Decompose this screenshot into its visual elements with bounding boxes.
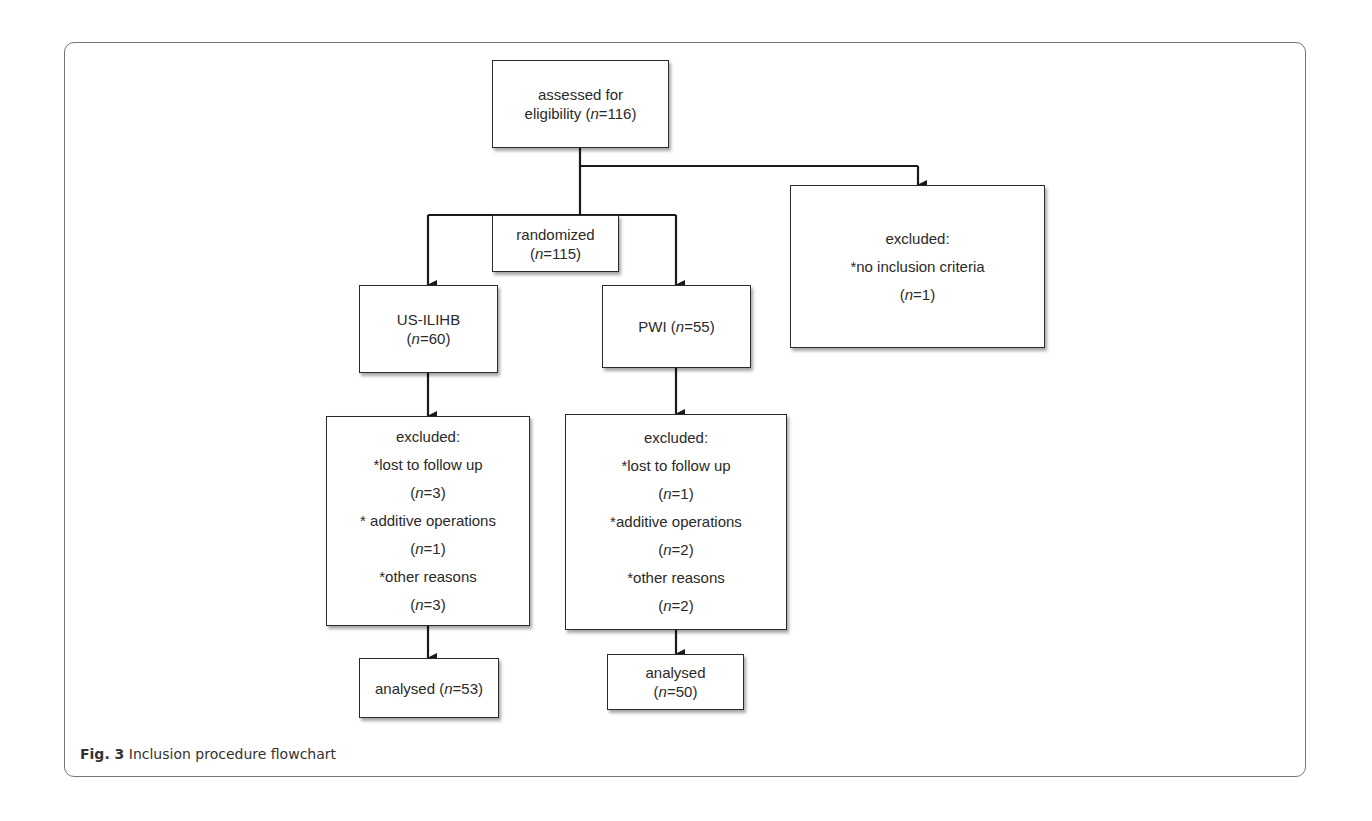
node-us-ilihb-label: US-ILIHB <box>397 310 460 329</box>
node-us-ilihb: US-ILIHB (n=60) <box>359 285 498 373</box>
excluded-pwi-reason-additive: *additive operations <box>610 508 742 536</box>
excluded-pwi-reason-other: *other reasons <box>627 564 725 592</box>
node-us-ilihb-count: (n=60) <box>407 329 451 348</box>
figure-caption: Fig. 3 Inclusion procedure flowchart <box>80 746 336 762</box>
excluded-us-reason-additive: * additive operations <box>360 507 496 535</box>
node-analysed-pwi-count: (n=50) <box>654 682 698 701</box>
excluded-us-reason-other: *other reasons <box>379 563 477 591</box>
excluded-pwi-reason-other-count: (n=2) <box>658 592 693 620</box>
excluded-us-reason-lost: *lost to follow up <box>373 451 482 479</box>
node-analysed-pwi: analysed (n=50) <box>607 654 744 710</box>
excluded-pwi-reason-additive-count: (n=2) <box>658 536 693 564</box>
node-assessed-line1: assessed for <box>538 85 623 104</box>
node-excluded-pwi: excluded: *lost to follow up (n=1) *addi… <box>565 414 787 630</box>
node-excluded-initial-title: excluded: <box>885 225 949 253</box>
excluded-us-reason-lost-count: (n=3) <box>410 479 445 507</box>
node-randomized-count: (n=115) <box>530 244 581 263</box>
node-analysed-us-ilihb: analysed (n=53) <box>359 658 499 718</box>
excluded-us-reason-other-count: (n=3) <box>410 591 445 619</box>
node-pwi: PWI (n=55) <box>602 285 751 368</box>
figure-caption-text: Inclusion procedure flowchart <box>129 746 336 762</box>
excluded-us-reason-additive-count: (n=1) <box>410 535 445 563</box>
node-assessed-count: eligibility (n=116) <box>525 104 637 123</box>
node-randomized-label: randomized <box>516 225 594 244</box>
excluded-pwi-reason-lost-count: (n=1) <box>658 480 693 508</box>
figure-label: Fig. 3 <box>80 746 124 762</box>
node-pwi-label: PWI (n=55) <box>638 317 714 336</box>
node-excluded-initial-count: (n=1) <box>900 281 935 309</box>
node-excluded-initial: excluded: *no inclusion criteria (n=1) <box>790 185 1045 348</box>
node-excluded-us-title: excluded: <box>396 423 460 451</box>
node-excluded-pwi-title: excluded: <box>644 424 708 452</box>
node-analysed-pwi-label: analysed <box>645 663 705 682</box>
node-excluded-us-ilihb: excluded: *lost to follow up (n=3) * add… <box>326 416 530 626</box>
node-analysed-us-label: analysed (n=53) <box>375 679 483 698</box>
node-assessed-eligibility: assessed for eligibility (n=116) <box>492 60 669 148</box>
excluded-pwi-reason-lost: *lost to follow up <box>621 452 730 480</box>
node-randomized: randomized (n=115) <box>492 215 619 272</box>
node-excluded-initial-reason: *no inclusion criteria <box>850 253 984 281</box>
